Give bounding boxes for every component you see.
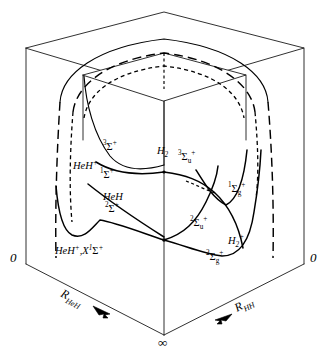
box-bottom-left-edge [26, 264, 164, 335]
label-h2: H2 [156, 145, 169, 158]
heh-text: HeH [54, 245, 76, 256]
sub-u: u [200, 223, 204, 231]
svg-text:HeH+: HeH+ [72, 159, 98, 172]
sub-u: u [188, 157, 192, 165]
svg-text:3Σ+: 3Σ+ [103, 139, 117, 152]
svg-text:1Σ+: 1Σ+ [100, 167, 114, 180]
potential-energy-surface-figure: 3Σ+ HeH+ 1Σ+ H2 3Σu+ HeH 2Σ+ 1Σg+ [0, 0, 329, 352]
pes-diagram-svg: 3Σ+ HeH+ 1Σ+ H2 3Σu+ HeH 2Σ+ 1Σg+ [0, 0, 329, 352]
sup-plus: + [113, 139, 117, 147]
right-wall-dashed-contour-outer [268, 102, 273, 258]
heh-text: HeH [72, 160, 94, 171]
zero-right: 0 [310, 250, 317, 265]
svg-text:RHH: RHH [231, 293, 257, 317]
sup-plus: + [93, 159, 98, 167]
sup-plus: + [115, 201, 119, 209]
sup-plus: + [98, 244, 103, 252]
box-bottom-right-edge [164, 264, 304, 335]
sup-plus: + [191, 149, 195, 157]
label-triplet-sigma-plus: 3Σ+ [103, 139, 117, 152]
svg-text:3Σu+: 3Σu+ [178, 149, 195, 165]
zero-left: 0 [10, 250, 17, 265]
curve-h2-plus-ground-well [164, 150, 261, 256]
label-axis-r-hh: RHH [231, 293, 257, 317]
svg-text:2Σ+: 2Σ+ [105, 201, 119, 214]
sup-plus: + [110, 167, 114, 175]
sub-2: 2 [236, 241, 240, 249]
left-wall-dashed-contour-outer [56, 102, 60, 258]
label-right-origin-zero: 0 [310, 250, 317, 265]
svg-text:RHeH: RHeH [57, 286, 86, 312]
svg-text:2Σg+: 2Σg+ [206, 249, 223, 265]
sub-g: g [216, 257, 220, 265]
label-heh-doublet: HeH 2Σ+ [102, 191, 124, 214]
svg-text:HeH+,X1Σ+: HeH+,X1Σ+ [54, 244, 103, 257]
label-heh-plus-singlet: HeH+ 1Σ+ [72, 159, 114, 180]
r-heh-direction-arrow [93, 306, 110, 318]
sup-plus: + [219, 249, 223, 257]
r-hh-direction-arrow [215, 314, 232, 324]
curve-heh-doublet-sigma-plus [88, 184, 164, 237]
sup-plus: + [241, 181, 245, 189]
sub-g: g [238, 189, 242, 197]
label-axis-r-heh: RHeH [57, 286, 86, 312]
right-wall-contours [255, 102, 273, 258]
curve-doublet-sigma-u-plus [164, 166, 218, 240]
label-infinity: ∞ [158, 335, 167, 350]
sup-plus: + [203, 215, 207, 223]
junction-upper [162, 170, 165, 173]
label-heh-plus-ground-state: HeH+,X1Σ+ [54, 244, 103, 257]
junction-lower [162, 238, 166, 242]
right-face-upper-curves [164, 150, 247, 248]
sub-2: 2 [165, 151, 169, 159]
label-doublet-sigma-g-plus: 2Σg+ [206, 249, 223, 265]
label-left-origin-zero: 0 [10, 250, 17, 265]
label-h2-triplet-sigma-u-plus: 3Σu+ [178, 149, 195, 165]
infinity-glyph: ∞ [158, 335, 167, 350]
right-face-lower-curves [164, 150, 261, 256]
sub-heh: HeH [63, 296, 83, 312]
sup-plus: + [239, 233, 244, 241]
svg-text:H2: H2 [156, 145, 169, 158]
